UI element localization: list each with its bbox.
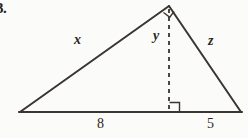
side-z-line [169,6,241,112]
label-side-x: x [74,32,81,48]
label-side-z: z [208,33,213,49]
base-segment-right-value: 5 [207,116,214,132]
label-side-y: y [153,28,159,44]
side-x-line [20,6,169,112]
base-segment-left-value: 8 [97,116,104,132]
foot-right-angle-icon [170,103,180,112]
worksheet-figure-page: 3. x y z 8 5 [0,0,248,138]
